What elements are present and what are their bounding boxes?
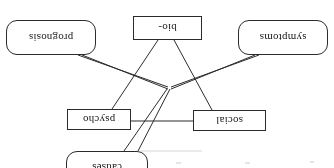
edge-psycho-bio [112,40,158,109]
node-causes[interactable]: causes [66,151,148,168]
node-bio[interactable]: bio- [133,16,202,40]
node-symptoms[interactable]: symptoms [238,20,328,55]
node-psycho-label: psycho [80,114,118,125]
node-causes-label: causes [89,162,125,168]
node-prognosis-label: prognosis [26,32,77,43]
node-social-label: social [213,115,246,126]
scan-artifact [245,162,250,164]
biopsychosocial-diagram: causes social psycho bio- symptoms progn… [0,0,334,168]
node-prognosis[interactable]: prognosis [6,20,96,55]
scan-artifact [176,162,181,164]
node-symptoms-label: symptoms [257,32,310,43]
scan-artifact [310,161,314,163]
scan-artifact [140,150,202,152]
edge-causes-hub-a [138,89,170,151]
node-bio-label: bio- [155,23,180,34]
edge-hub-prognosis-b [78,55,168,87]
diagram-canvas: causes social psycho bio- symptoms progn… [0,0,334,168]
node-psycho[interactable]: psycho [67,109,131,130]
node-social[interactable]: social [193,110,266,131]
